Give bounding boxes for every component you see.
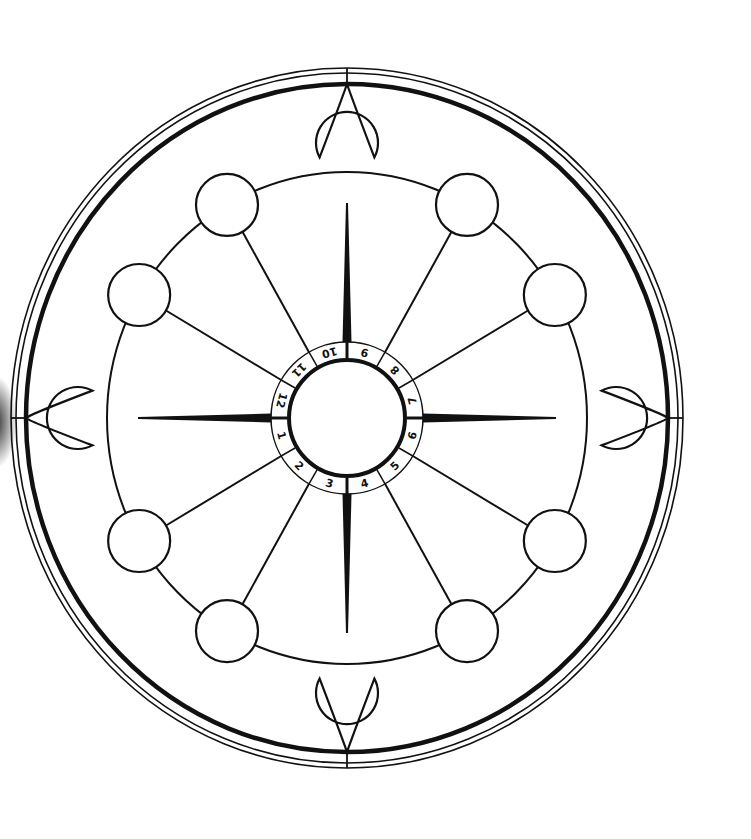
spoke [243, 484, 310, 604]
house-node-circle [524, 510, 586, 572]
spoke [166, 456, 281, 526]
wheel-svg: 123456789101112 [0, 0, 751, 839]
house-wheel-diagram: 123456789101112 [0, 0, 751, 839]
house-node-circle [108, 264, 170, 326]
cardinal-spoke [138, 414, 271, 423]
house-node-teardrop [316, 84, 378, 157]
spoke [413, 311, 528, 381]
house-node-circle [524, 264, 586, 326]
inner-ring [271, 342, 423, 494]
house-node-circle [108, 510, 170, 572]
spoke [385, 484, 452, 604]
cardinal-spoke [343, 203, 352, 342]
house-node-circle [196, 174, 258, 236]
house-node-circle [196, 600, 258, 662]
house-node-teardrop [602, 387, 668, 449]
spoke [243, 232, 310, 352]
house-node-teardrop [26, 387, 92, 449]
house-node-circle [436, 600, 498, 662]
spoke [166, 311, 281, 381]
cardinal-spoke [423, 414, 556, 423]
house-node-circle [436, 174, 498, 236]
spoke [413, 456, 528, 526]
cardinal-spoke [343, 494, 352, 633]
house-node-teardrop [316, 679, 378, 752]
center-circle [289, 360, 405, 476]
spoke [385, 232, 452, 352]
